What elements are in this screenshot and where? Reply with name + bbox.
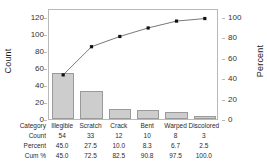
y-tick-right-40: 40	[228, 74, 254, 83]
y-tickmark-right-80	[222, 38, 225, 39]
y-tickmark-right-60	[222, 59, 225, 60]
cumulative-percent-line	[49, 10, 219, 121]
y-tickmark-left-60	[44, 69, 47, 70]
y-tickmark-left-120	[44, 18, 47, 19]
data-table: CategoryIllegibleScratchCrackBentWarpedD…	[0, 122, 267, 164]
cumulative-marker-crack	[118, 35, 121, 38]
y-axis-title-left: Count	[3, 35, 13, 87]
y-tick-left-40: 40	[18, 81, 44, 90]
y-tickmark-left-100	[44, 35, 47, 36]
y-tickmark-left-20	[44, 103, 47, 104]
y-tick-left-60: 60	[18, 64, 44, 73]
table-cell-percent-5: 2.5	[178, 142, 230, 149]
cumulative-line-path	[63, 19, 205, 75]
y-tickmark-right-40	[222, 79, 225, 80]
y-tickmark-left-0	[44, 120, 47, 121]
y-tickmark-right-100	[222, 18, 225, 19]
table-row-cum-percent: Cum %45.072.582.590.897.5100.0	[0, 152, 267, 162]
table-row-percent: Percent45.027.510.08.36.72.5	[0, 142, 267, 152]
table-row-category: CategoryIllegibleScratchCrackBentWarpedD…	[0, 122, 267, 132]
table-cell-cum-percent-5: 100.0	[178, 152, 230, 159]
y-tick-left-80: 80	[18, 47, 44, 56]
y-tick-right-60: 60	[228, 54, 254, 63]
y-tick-right-20: 20	[228, 95, 254, 104]
y-axis-title-right: Percent	[255, 35, 265, 87]
cumulative-marker-warped	[175, 19, 178, 22]
table-cell-count-5: 3	[178, 132, 230, 139]
y-axis-left-ticks: 120100806040200	[17, 9, 44, 120]
plot-area	[48, 9, 218, 120]
pareto-chart-figure: Count Percent 120100806040200 1008060402…	[0, 0, 267, 164]
y-tickmark-right-0	[222, 120, 225, 121]
y-tickmark-left-40	[44, 86, 47, 87]
y-tick-left-120: 120	[18, 13, 44, 22]
y-tickmark-left-80	[44, 52, 47, 53]
y-tick-right-100: 100	[228, 13, 254, 22]
cumulative-marker-bent	[147, 26, 150, 29]
table-row-count: Count5433121083	[0, 132, 267, 142]
plot-inner	[49, 10, 217, 119]
cumulative-marker-discolored	[203, 17, 206, 20]
y-tick-left-100: 100	[18, 30, 44, 39]
y-tickmark-right-20	[222, 100, 225, 101]
cumulative-marker-illegible	[62, 73, 65, 76]
cumulative-marker-scratch	[90, 45, 93, 48]
y-axis-right-ticks: 100806040200	[222, 9, 249, 120]
y-tick-right-80: 80	[228, 33, 254, 42]
y-tick-left-20: 20	[18, 98, 44, 107]
table-cell-category-5: Discolored	[178, 122, 230, 129]
